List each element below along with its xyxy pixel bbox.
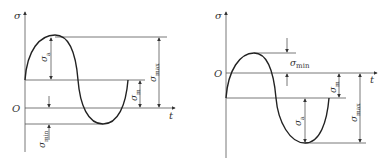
- left-stress-curve: [25, 35, 128, 124]
- left-t-axis-label: t: [169, 110, 174, 121]
- left-max-sub: max: [153, 63, 160, 76]
- right-mean-sub: m: [333, 81, 340, 87]
- right-figure: σ t O σ min σ a σ m σ max: [214, 10, 377, 158]
- right-max-sub: max: [354, 103, 361, 116]
- right-min-sub: min: [296, 62, 310, 70]
- right-amplitude-sub: a: [298, 116, 305, 120]
- left-min-sub: min: [42, 130, 49, 142]
- left-origin-label: O: [12, 103, 20, 114]
- right-origin-label: O: [214, 68, 222, 79]
- stress-cycle-diagrams: σ t O σ a σ m σ max σ: [0, 0, 388, 165]
- left-mean-sub: m: [134, 89, 141, 95]
- left-y-axis-label: σ: [14, 10, 22, 21]
- right-t-axis-label: t: [370, 74, 375, 85]
- right-y-axis-label: σ: [215, 10, 223, 21]
- left-amplitude-sub: a: [44, 52, 51, 56]
- left-figure: σ t O σ a σ m σ max σ: [12, 10, 175, 152]
